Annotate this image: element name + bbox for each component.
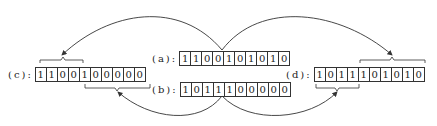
bit-cell: 1 <box>225 83 236 96</box>
bit-cell: 0 <box>58 68 69 81</box>
bit-cell: 1 <box>246 52 257 65</box>
row-c: (c): 1 1 0 0 1 0 0 0 0 0 <box>8 67 146 81</box>
brace-c-top <box>40 57 83 63</box>
bit-cell: 0 <box>279 52 289 65</box>
bit-cell: 1 <box>348 68 359 81</box>
bit-string: 1 0 1 1 1 0 1 0 1 0 <box>314 67 425 82</box>
bit-cell: 0 <box>326 68 337 81</box>
bit-string: 1 1 0 0 1 0 1 0 1 0 <box>179 51 290 66</box>
row-label: (d): <box>286 69 312 80</box>
bit-cell: 1 <box>403 68 414 81</box>
row-label: (a): <box>152 53 177 64</box>
bit-cell: 0 <box>414 68 424 81</box>
bit-cell: 0 <box>69 68 80 81</box>
bit-cell: 0 <box>280 83 290 96</box>
row-d: (d): 1 0 1 1 1 0 1 0 1 0 <box>286 67 425 81</box>
row-a: (a): 1 1 0 0 1 0 1 0 1 0 <box>152 51 290 65</box>
bit-cell: 0 <box>247 83 258 96</box>
bit-cell: 1 <box>191 52 202 65</box>
bit-cell: 1 <box>47 68 58 81</box>
row-label: (b): <box>152 84 178 95</box>
bit-cell: 0 <box>235 52 246 65</box>
bit-cell: 0 <box>213 52 224 65</box>
bit-cell: 1 <box>337 68 348 81</box>
bit-cell: 1 <box>203 83 214 96</box>
bit-cell: 0 <box>370 68 381 81</box>
bit-string: 1 0 1 1 1 0 0 0 0 0 <box>180 82 291 97</box>
bit-cell: 0 <box>135 68 145 81</box>
bit-cell: 0 <box>392 68 403 81</box>
bit-cell: 1 <box>180 52 191 65</box>
row-b: (b): 1 0 1 1 1 0 0 0 0 0 <box>152 82 291 96</box>
bit-cell: 1 <box>381 68 392 81</box>
bit-cell: 0 <box>257 52 268 65</box>
bit-cell: 1 <box>359 68 370 81</box>
bit-cell: 0 <box>102 68 113 81</box>
bit-cell: 1 <box>268 52 279 65</box>
bit-cell: 1 <box>224 52 235 65</box>
brace-d-bottom <box>316 84 359 91</box>
bit-cell: 0 <box>91 68 102 81</box>
bit-string: 1 1 0 0 1 0 0 0 0 0 <box>35 67 146 82</box>
bit-cell: 0 <box>192 83 203 96</box>
bit-cell: 1 <box>181 83 192 96</box>
row-label: (c): <box>8 69 33 80</box>
brace-d-top <box>360 57 425 63</box>
bit-cell: 0 <box>236 83 247 96</box>
bit-cell: 0 <box>258 83 269 96</box>
bit-cell: 1 <box>36 68 47 81</box>
brace-c-bottom <box>85 84 150 91</box>
bit-cell: 0 <box>124 68 135 81</box>
bit-cell: 1 <box>214 83 225 96</box>
bit-cell: 0 <box>202 52 213 65</box>
bit-cell: 0 <box>113 68 124 81</box>
bit-cell: 0 <box>269 83 280 96</box>
bit-cell: 1 <box>315 68 326 81</box>
bit-cell: 1 <box>80 68 91 81</box>
